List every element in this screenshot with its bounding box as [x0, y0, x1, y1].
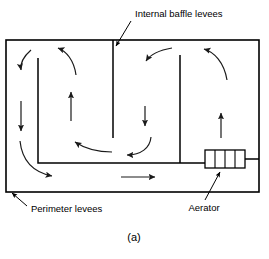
label-internal-baffle-levees: Internal baffle levees	[135, 8, 223, 19]
label-perimeter-levees: Perimeter levees	[31, 203, 103, 214]
flow-arrow-curve-up-left-upper	[58, 48, 76, 75]
label-aerator: Aerator	[188, 202, 219, 213]
flow-arrow-curve-up-right-cell	[204, 49, 227, 80]
leader-internal-baffle-levees	[116, 21, 131, 46]
figure-caption: (a)	[127, 231, 140, 243]
leader-perimeter-levees	[12, 193, 27, 206]
flow-arrow-curve-down-left-middle	[146, 48, 172, 61]
flow-arrow-curve-left-lower-outer	[127, 137, 151, 155]
flow-arrow-curve-down-left-upper	[21, 50, 31, 70]
leader-aerator	[205, 172, 220, 200]
pond-circulation-diagram: Internal baffle levees Perimeter levees …	[0, 0, 269, 259]
figure-container: Internal baffle levees Perimeter levees …	[0, 0, 269, 259]
flow-arrow-curve-down-right-bottom	[20, 141, 52, 176]
aerator-unit	[205, 150, 245, 168]
flow-arrow-curve-left-lower-inner	[75, 142, 112, 152]
